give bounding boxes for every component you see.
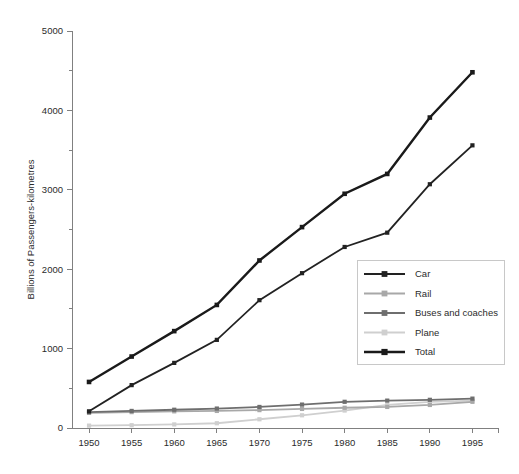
data-point-marker (428, 182, 432, 186)
data-point-marker (215, 406, 219, 410)
y-axis-title-label: Billions of Passengers-kilometres (25, 159, 36, 299)
data-point-marker (215, 338, 219, 342)
y-tick-label: 0 (58, 422, 63, 433)
data-point-marker (172, 361, 176, 365)
data-point-marker (300, 402, 304, 406)
data-point-marker (215, 421, 219, 425)
data-point-marker (385, 172, 390, 177)
data-point-marker (300, 413, 304, 417)
data-point-marker (172, 408, 176, 412)
x-tick-label: 1995 (462, 437, 483, 448)
y-tick-label: 3000 (42, 184, 63, 195)
x-tick-label: 1965 (206, 437, 227, 448)
data-point-marker (343, 406, 347, 410)
line-chart: 010002000300040005000 195019551960196519… (0, 0, 519, 474)
data-point-marker (470, 397, 474, 401)
x-tick-label: 1975 (291, 437, 312, 448)
data-point-marker (257, 417, 261, 421)
y-tick-label: 1000 (42, 343, 63, 354)
data-point-marker (428, 403, 432, 407)
x-tick-label: 1980 (334, 437, 355, 448)
legend-swatch-marker (382, 271, 388, 277)
x-tick-label: 1990 (419, 437, 440, 448)
y-axis-title: Billions of Passengers-kilometres (25, 159, 36, 299)
data-point-marker (129, 354, 134, 359)
legend-item-label: Total (415, 346, 435, 357)
legend-item-label: Buses and coaches (415, 307, 498, 318)
data-point-marker (428, 398, 432, 402)
legend-item-label: Car (415, 268, 430, 279)
x-tick-label: 1950 (78, 437, 99, 448)
legend-swatch-marker (381, 349, 387, 355)
plot-background (0, 0, 519, 474)
data-point-marker (385, 231, 389, 235)
legend-item-label: Plane (415, 327, 439, 338)
legend-swatch-marker (382, 291, 388, 297)
data-point-marker (343, 245, 347, 249)
data-point-marker (257, 298, 261, 302)
data-point-marker (130, 383, 134, 387)
data-point-marker (428, 115, 433, 120)
x-tick-label: 1985 (377, 437, 398, 448)
data-point-marker (172, 329, 177, 334)
data-point-marker (385, 405, 389, 409)
data-point-marker (87, 380, 92, 385)
data-point-marker (385, 399, 389, 403)
x-tick-label: 1955 (121, 437, 142, 448)
y-tick-label: 4000 (42, 105, 63, 116)
data-point-marker (470, 70, 475, 75)
y-tick-label: 2000 (42, 264, 63, 275)
y-tick-label: 5000 (42, 25, 63, 36)
data-point-marker (470, 143, 474, 147)
data-point-marker (172, 422, 176, 426)
chart-container: 010002000300040005000 195019551960196519… (0, 0, 519, 474)
data-point-marker (300, 225, 305, 230)
legend-item-label: Rail (415, 288, 431, 299)
data-point-marker (300, 407, 304, 411)
data-point-marker (300, 271, 304, 275)
legend-swatch-marker (382, 310, 388, 316)
x-tick-label: 1960 (164, 437, 185, 448)
data-point-marker (342, 191, 347, 196)
x-tick-label: 1970 (249, 437, 270, 448)
data-point-marker (257, 258, 262, 263)
data-point-marker (87, 424, 91, 428)
data-point-marker (343, 400, 347, 404)
data-point-marker (130, 423, 134, 427)
chart-legend: CarRailBuses and coachesPlaneTotal (357, 260, 504, 364)
data-point-marker (257, 405, 261, 409)
legend-swatch-marker (382, 330, 388, 336)
data-point-marker (130, 409, 134, 413)
data-point-marker (87, 409, 91, 413)
data-point-marker (215, 303, 220, 308)
